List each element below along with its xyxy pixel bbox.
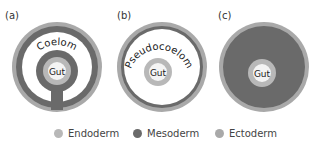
pseudocoelomate-diagram: Pseudocoelom Gut bbox=[117, 22, 207, 112]
gut-label: Gut bbox=[254, 69, 271, 79]
legend-label: Ectoderm bbox=[229, 128, 277, 139]
ectoderm-swatch-icon bbox=[215, 129, 224, 138]
gut-label: Gut bbox=[49, 67, 66, 77]
legend-label: Mesoderm bbox=[147, 128, 199, 139]
gut-label: Gut bbox=[150, 68, 167, 78]
legend-label: Endoderm bbox=[68, 128, 119, 139]
coelomate-diagram: Coelom Gut bbox=[12, 22, 102, 112]
legend-ectoderm: Ectoderm bbox=[215, 128, 277, 139]
legend-endoderm: Endoderm bbox=[54, 128, 119, 139]
endoderm-swatch-icon bbox=[54, 129, 63, 138]
legend: Endoderm Mesoderm Ectoderm bbox=[0, 128, 326, 144]
acoelomate-diagram: Gut bbox=[219, 22, 309, 112]
legend-mesoderm: Mesoderm bbox=[133, 128, 199, 139]
mesoderm-swatch-icon bbox=[133, 129, 142, 138]
